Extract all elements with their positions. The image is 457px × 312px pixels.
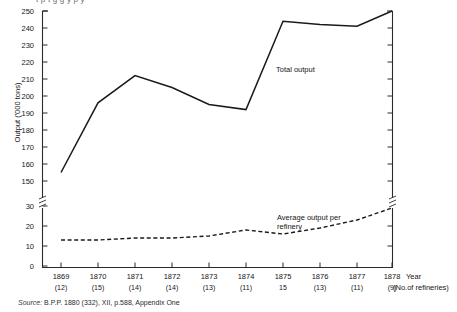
series-line-average-output — [61, 208, 392, 240]
plot-area — [0, 0, 457, 312]
y-ticks-lower-marks — [43, 206, 48, 266]
series-line-total-output — [61, 11, 392, 173]
annotation-total-output: Total output — [276, 65, 315, 74]
y-axis-break-right — [389, 196, 396, 207]
y-axis-break-left — [39, 196, 46, 207]
x-axis-sub-title: (No.of refineries) — [393, 283, 449, 292]
source-note: Source: B.P.P. 1880 (332), XII, p.588, A… — [18, 299, 180, 306]
source-label: Source: — [18, 299, 42, 306]
y-ticks-upper-marks — [43, 11, 48, 181]
y-ticks-right-marks — [388, 28, 393, 246]
chart-figure: t p t g g y p y Output ('000 tons) 250 2… — [0, 0, 457, 312]
source-text: B.P.P. 1880 (332), XII, p.588, Appendix … — [44, 299, 180, 306]
annotation-average-output: Average output per refinery — [277, 213, 341, 231]
x-ticks-marks — [61, 263, 392, 268]
x-axis-title: Year — [406, 272, 421, 281]
